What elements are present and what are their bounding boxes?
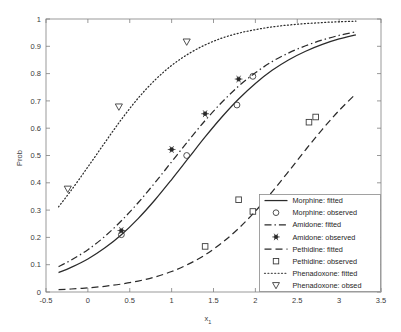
y-tick-label: 0.2	[31, 233, 41, 242]
y-tick-label: 0.4	[31, 178, 41, 187]
y-tick-label: 1	[37, 15, 41, 24]
x-tick-label: 3.5	[376, 296, 386, 305]
legend-label: Amidone: observed	[293, 233, 356, 242]
x-tick-label: -0.5	[40, 296, 53, 305]
figure-canvas: -0.500.511.522.533.5 00.10.20.30.40.50.6…	[0, 0, 401, 332]
legend-label: Pethidine: fitted	[293, 245, 343, 254]
y-tick-label: 0.7	[31, 97, 41, 106]
legend-label: Pethidine: observed	[293, 257, 358, 266]
legend-label: Amidone: fitted	[293, 220, 342, 229]
x-tick-label: 0	[86, 296, 90, 305]
x-tick-label: 2	[253, 296, 257, 305]
x-tick-label: 2.5	[292, 296, 302, 305]
y-tick-label: 0.6	[31, 124, 41, 133]
y-axis-label: Prob	[15, 150, 24, 166]
y-tick-label: 0.1	[31, 260, 41, 269]
y-tick-label: 0.3	[31, 206, 41, 215]
x-tick-label: 1.5	[208, 296, 218, 305]
y-tick-label: 0.9	[31, 42, 41, 51]
y-tick-label: 0	[37, 288, 41, 297]
legend-label: Phenadoxone: obsed	[293, 281, 362, 290]
y-tick-label: 0.8	[31, 69, 41, 78]
chart-legend: Morphine: fittedMorphine: observedAmidon…	[260, 195, 381, 292]
legend-label: Morphine: observed	[293, 208, 358, 217]
legend-label: Morphine: fitted	[293, 196, 343, 205]
probability-curve-chart: -0.500.511.522.533.5 00.10.20.30.40.50.6…	[0, 0, 401, 332]
y-tick-label: 0.5	[31, 151, 41, 160]
x-tick-label: 0.5	[125, 296, 135, 305]
x-tick-label: 1	[170, 296, 174, 305]
legend-label: Phenadoxone: fitted	[293, 269, 358, 278]
x-tick-label: 3	[337, 296, 341, 305]
